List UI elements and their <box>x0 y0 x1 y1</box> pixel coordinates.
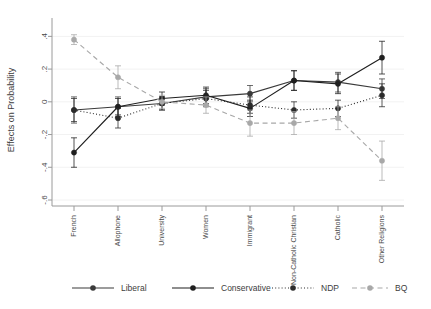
y-tick-label: -.2 <box>40 129 49 139</box>
data-point <box>291 78 296 83</box>
y-tick-label: -.6 <box>40 195 49 205</box>
legend-marker <box>367 285 373 291</box>
data-point <box>335 81 340 86</box>
x-axis: FrenchAllophoneUniversityWomenImmigrantN… <box>52 206 404 285</box>
data-point <box>159 99 164 104</box>
legend-item-bq[interactable]: BQ <box>352 283 408 293</box>
legend-item-ndp[interactable]: NDP <box>272 283 339 293</box>
legend: LiberalConservativeNDPBQ <box>72 283 408 293</box>
x-tick-label: Other Religions <box>378 215 386 264</box>
legend-label: Liberal <box>121 283 147 293</box>
legend-label: NDP <box>321 283 339 293</box>
legend-item-conservative[interactable]: Conservative <box>172 283 271 293</box>
x-tick-label: Allophone <box>114 215 122 246</box>
x-tick-label: University <box>158 215 166 246</box>
data-point <box>291 120 296 125</box>
y-tick-label: 0 <box>40 99 49 104</box>
y-tick-label: .2 <box>40 65 49 72</box>
legend-marker <box>190 285 196 291</box>
data-point <box>379 93 384 98</box>
legend-label: Conservative <box>221 283 271 293</box>
plot-area <box>52 20 404 200</box>
effects-on-probability-chart: .4.20-.2-.4-.6Effects on ProbabilityFren… <box>0 0 431 309</box>
x-tick-label: Women <box>202 215 209 239</box>
data-point <box>71 107 76 112</box>
data-point <box>247 102 252 107</box>
data-point <box>71 150 76 155</box>
data-point <box>203 102 208 107</box>
x-tick-label: Catholic <box>334 215 341 241</box>
x-tick-label: French <box>70 215 77 237</box>
chart-canvas: .4.20-.2-.4-.6Effects on ProbabilityFren… <box>0 0 431 309</box>
legend-marker <box>90 285 96 291</box>
y-axis: .4.20-.2-.4-.6Effects on Probability <box>6 18 52 206</box>
y-axis-title: Effects on Probability <box>6 67 16 152</box>
data-point <box>115 116 120 121</box>
data-point <box>247 120 252 125</box>
y-tick-label: -.4 <box>40 162 49 172</box>
legend-item-liberal[interactable]: Liberal <box>72 283 147 293</box>
data-point <box>335 116 340 121</box>
data-point <box>115 75 120 80</box>
data-point <box>379 55 384 60</box>
legend-label: BQ <box>395 283 408 293</box>
data-point <box>247 91 252 96</box>
x-tick-label: Immigrant <box>246 215 254 246</box>
data-point <box>71 37 76 42</box>
y-tick-label: .4 <box>40 32 49 39</box>
legend-marker <box>290 285 296 291</box>
data-point <box>379 158 384 163</box>
x-tick-label: Non-Catholic Christian <box>290 215 297 285</box>
